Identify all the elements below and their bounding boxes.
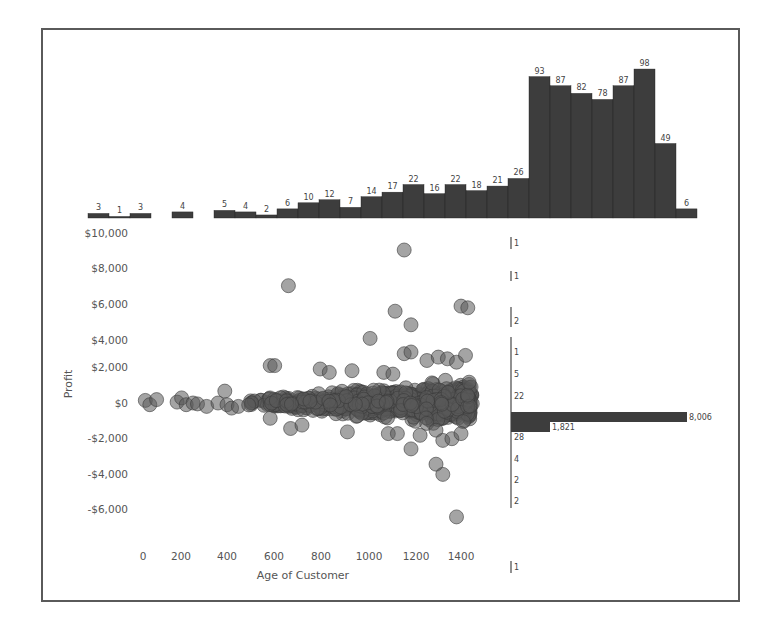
hist-bar (109, 216, 130, 218)
hist-bar-label: 14 (366, 187, 376, 196)
hist-bar (214, 210, 235, 218)
hist-bar-label: 12 (324, 190, 334, 199)
scatter-point (295, 418, 309, 432)
y-tick: -$4,000 (87, 468, 128, 480)
y-tick: $10,000 (85, 227, 128, 239)
x-tick: 1000 (356, 550, 383, 562)
y-tick: -$2,000 (87, 432, 128, 444)
scatter-point (450, 510, 464, 524)
hist-bar-label: 21 (492, 176, 502, 185)
hist-bar (172, 212, 193, 218)
bar-label: 2 (514, 497, 519, 506)
hist-bar (529, 77, 550, 218)
scatter-point (388, 304, 402, 318)
bar-label: 2 (514, 317, 519, 326)
hist-bar (634, 69, 655, 218)
scatter-point (386, 367, 400, 381)
y-tick: $4,000 (91, 334, 128, 346)
hist-bar (676, 209, 697, 218)
scatter-point (404, 442, 418, 456)
scatter-point (281, 279, 295, 293)
scatter-point (405, 399, 419, 413)
scatter-point (390, 427, 404, 441)
hist-bar (256, 215, 277, 218)
hist-bar-label: 22 (450, 175, 460, 184)
hist-bar-label: 82 (576, 83, 586, 92)
scatter-point (339, 390, 353, 404)
hist-bar-label: 98 (639, 59, 649, 68)
bar-label: 2 (514, 476, 519, 485)
scatter-point (379, 396, 393, 410)
hist-bar (88, 213, 109, 218)
scatter-point (323, 398, 337, 412)
hist-bar-label: 5 (222, 200, 227, 209)
scatter-point (404, 318, 418, 332)
hist-bar-label: 87 (555, 76, 565, 85)
hist-bar-label: 6 (684, 199, 689, 208)
y-tick: $8,000 (91, 262, 128, 274)
scatter-point (340, 425, 354, 439)
hist-bar (382, 192, 403, 218)
hist-bar (550, 86, 571, 218)
scatter-point (461, 301, 475, 315)
scatter-point (268, 359, 282, 373)
hist-bar (445, 185, 466, 218)
scatter-point (397, 243, 411, 257)
scatter-point (435, 397, 449, 411)
hist-bar (298, 203, 319, 218)
bar-profit-neg (511, 422, 550, 432)
scatter-point (242, 398, 256, 412)
scatter-point (284, 397, 298, 411)
bar-label: 1 (514, 348, 519, 357)
hist-bar (487, 186, 508, 218)
bar-label: 4 (514, 455, 519, 464)
scatter-point (436, 467, 450, 481)
bar-profit-0 (511, 412, 687, 422)
hist-bar (655, 144, 676, 218)
scatter-point (404, 345, 418, 359)
scatter-point (461, 388, 475, 402)
scatter-point (381, 411, 395, 425)
y-tick: $6,000 (91, 298, 128, 310)
hist-bar (466, 191, 487, 218)
x-tick: 600 (264, 550, 284, 562)
scatter-point (363, 331, 377, 345)
hist-bar-label: 6 (285, 199, 290, 208)
scatter-point (345, 364, 359, 378)
hist-bar (277, 209, 298, 218)
hist-bar-label: 93 (534, 67, 544, 76)
bar-label: 22 (514, 392, 524, 401)
scatter-point (459, 348, 473, 362)
hist-bar (571, 93, 592, 218)
hist-bar-label: 4 (243, 202, 248, 211)
hist-bar-label: 1 (117, 206, 122, 215)
x-tick: 200 (171, 550, 191, 562)
bar-label: 28 (514, 433, 524, 442)
hist-bar-label: 7 (348, 197, 353, 206)
hist-bar-label: 10 (303, 193, 313, 202)
scatter-point (462, 375, 476, 389)
hist-bar (613, 86, 634, 218)
hist-bar-label: 3 (138, 203, 143, 212)
y-tick: $2,000 (91, 361, 128, 373)
hist-bar (340, 207, 361, 218)
x-tick: 1400 (448, 550, 475, 562)
hist-bar-label: 49 (660, 134, 670, 143)
y-axis-label: Profit (62, 369, 75, 398)
scatter-point (150, 393, 164, 407)
right-histogram: 1 1 2 1 5 22 8,006 1,821 28 4 2 2 1 (511, 237, 712, 573)
hist-bar (235, 212, 256, 218)
x-axis: 0 200 400 600 800 1000 1200 1400 (140, 550, 475, 562)
x-tick: 0 (140, 550, 147, 562)
hist-bar (592, 99, 613, 218)
scatter-point (303, 394, 317, 408)
x-tick: 800 (311, 550, 331, 562)
hist-bar (319, 200, 340, 218)
hist-bar-label: 26 (513, 168, 523, 177)
top-histogram: 3134542610127141722162218212693878278879… (88, 59, 697, 218)
scatter-point (322, 365, 336, 379)
hist-bar-label: 16 (429, 184, 439, 193)
bar-label-second: 1,821 (552, 423, 575, 432)
hist-bar (361, 197, 382, 218)
bar-label: 1 (514, 272, 519, 281)
